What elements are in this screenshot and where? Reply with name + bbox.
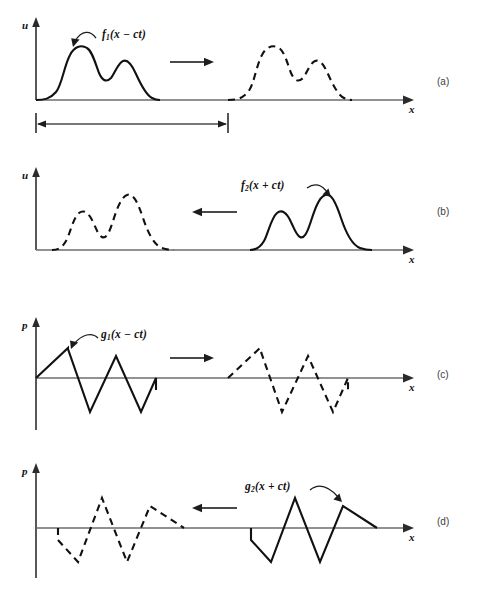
- panel-a-tag: (a): [437, 77, 449, 87]
- panel-c-tag: (c): [437, 370, 449, 380]
- panel-c-x-axis-label: x: [409, 382, 415, 393]
- panel-c-solid-wave: [36, 348, 156, 412]
- panel-c-y-axis-label: p: [22, 320, 28, 331]
- panel-b-group: [32, 167, 414, 254]
- panel-b-leader: [307, 185, 331, 197]
- panel-d-y-axis-arrowhead: [32, 463, 40, 473]
- panel-c-direction-arrow-head: [204, 354, 214, 362]
- panel-a-direction-arrow-head: [204, 58, 214, 66]
- panel-b-tag: (b): [437, 207, 449, 217]
- panel-a-dashed-wave: [228, 46, 352, 100]
- panel-d-function-label: g2(x + ct): [245, 481, 291, 493]
- panel-d-dashed-wave: [58, 498, 184, 562]
- panel-d-tag: (d): [437, 517, 449, 527]
- panel-a-leader: [71, 32, 96, 47]
- panel-c-dashed-wave: [228, 348, 348, 412]
- panel-c-leader: [70, 335, 98, 349]
- panel-d-x-axis-label: x: [409, 532, 415, 543]
- panel-a-dimension-bar: [36, 113, 228, 133]
- panel-a-x-axis-label: x: [409, 104, 415, 115]
- panel-a-y-axis-label: u: [22, 20, 28, 31]
- panel-a-y-axis-arrowhead: [32, 17, 40, 27]
- panel-b-solid-wave: [250, 195, 372, 250]
- panel-b-y-axis-label: u: [22, 170, 28, 181]
- wave-figure: u x f1(x − ct) (a) u x f2(x + ct) (b) p …: [0, 0, 483, 594]
- panel-b-function-label: f2(x + ct): [241, 180, 285, 192]
- panel-a-solid-wave: [36, 46, 160, 100]
- panel-b-direction-arrow-head: [192, 208, 202, 216]
- panel-d-y-axis-label: p: [22, 466, 28, 477]
- panel-d-leader: [310, 486, 342, 502]
- panel-a-group: [32, 17, 414, 133]
- panel-d-solid-wave: [251, 498, 377, 562]
- panel-d-direction-arrow-head: [192, 504, 202, 512]
- panel-c-group: [32, 317, 414, 430]
- panel-b-x-axis-label: x: [409, 254, 415, 265]
- figure-canvas: [0, 0, 483, 594]
- panel-b-dashed-wave: [52, 195, 174, 250]
- panel-a-function-label: f1(x − ct): [102, 29, 146, 41]
- panel-b-y-axis-arrowhead: [32, 167, 40, 177]
- panel-d-group: [32, 463, 414, 578]
- panel-c-function-label: g1(x − ct): [101, 329, 147, 341]
- panel-c-y-axis-arrowhead: [32, 317, 40, 327]
